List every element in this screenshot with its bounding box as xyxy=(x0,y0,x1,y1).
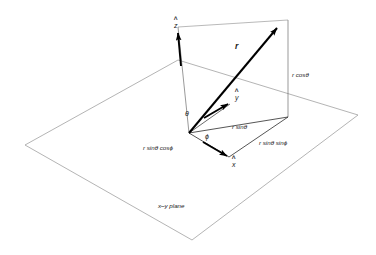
phi-angle-label: ϕ xyxy=(205,133,209,140)
r-vector-arrow xyxy=(189,28,277,133)
y-hat-glyph: y xyxy=(235,94,239,101)
theta-angle-label: θ xyxy=(185,110,189,117)
r-cos-theta-label: r cosθ xyxy=(292,72,309,78)
x-hat-arrow xyxy=(203,142,227,156)
xy-plane-outline xyxy=(25,60,358,240)
y-hat-label: y xyxy=(235,94,239,101)
r-sin-theta-cos-phi-label: r sinθ cosϕ xyxy=(143,145,173,151)
z-hat-label: z xyxy=(174,22,178,29)
xy-plane-caption: x–y plane xyxy=(158,203,185,209)
x-hat-glyph: x xyxy=(232,161,236,168)
r-vector-label: r xyxy=(235,42,238,51)
r-sin-theta-label: r sinθ xyxy=(232,124,247,130)
r-sin-theta-sin-phi-label: r sinθ sinϕ xyxy=(259,140,287,146)
figure-canvas xyxy=(0,0,376,255)
spherical-coordinate-figure: z r r cosθ y θ r sinθ ϕ r sinθ sinϕ r si… xyxy=(0,0,376,255)
z-hat-glyph: z xyxy=(174,22,178,29)
top-projection-edge xyxy=(178,20,288,27)
x-hat-label: x xyxy=(232,161,236,168)
